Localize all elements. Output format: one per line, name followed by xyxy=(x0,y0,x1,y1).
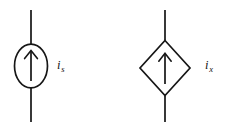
circuit-figure: is ix xyxy=(0,0,234,134)
dependent-current-source-symbol xyxy=(140,10,190,122)
label-ix-subscript: x xyxy=(209,64,213,74)
label-is-subscript: s xyxy=(61,64,65,74)
label-current-is: is xyxy=(57,59,64,72)
circuit-diagram-canvas xyxy=(0,0,234,134)
independent-current-source-symbol xyxy=(15,10,48,122)
label-current-ix: ix xyxy=(205,59,213,72)
